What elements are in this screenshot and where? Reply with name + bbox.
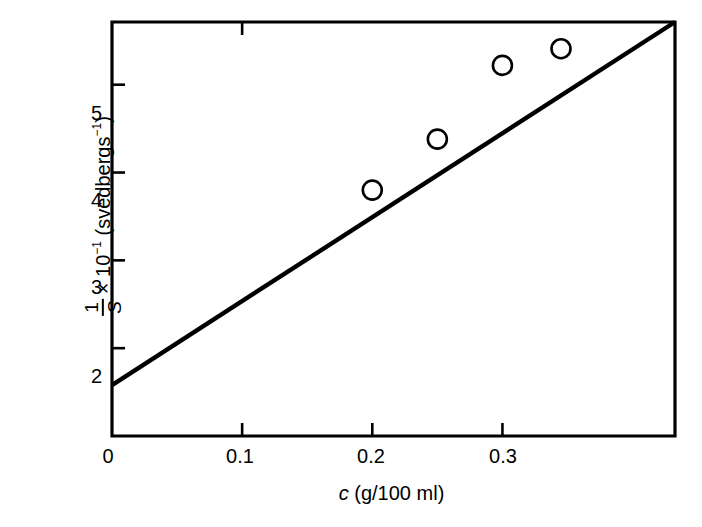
regression-line — [112, 22, 675, 385]
axis-ticks — [112, 22, 502, 436]
plot-frame — [112, 22, 675, 436]
data-point-2 — [493, 56, 512, 75]
chart-figure: 1 S × 10−1 (svedbergs−1) 5 4 3 2 0 0.1 0… — [0, 0, 702, 527]
data-points — [363, 39, 571, 199]
fit-line — [112, 22, 675, 385]
data-point-0 — [363, 181, 382, 200]
data-point-1 — [428, 130, 447, 149]
axis-frame — [112, 22, 675, 436]
data-point-3 — [551, 39, 570, 58]
plot-area — [0, 0, 702, 527]
